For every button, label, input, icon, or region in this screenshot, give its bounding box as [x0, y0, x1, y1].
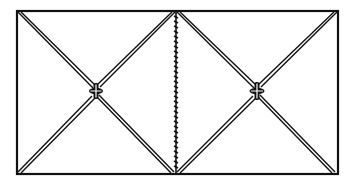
two-square-diagram	[0, 0, 354, 184]
stitched-seam	[174, 12, 178, 173]
